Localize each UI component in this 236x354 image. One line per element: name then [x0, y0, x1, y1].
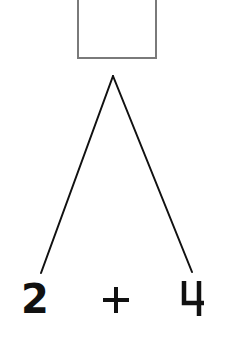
- left-branch-line: [41, 76, 113, 273]
- left-term: 2: [21, 279, 49, 319]
- right-term: 4: [181, 281, 205, 316]
- four-glyph: [181, 281, 205, 316]
- number-bond-diagram: 2 + 4: [0, 0, 236, 354]
- right-branch-line: [113, 76, 192, 272]
- plus-operator: +: [103, 287, 129, 313]
